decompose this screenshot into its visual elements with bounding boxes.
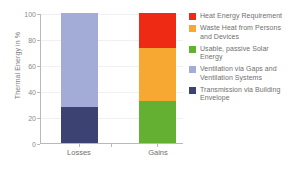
bar-losses <box>61 13 98 143</box>
bar-segment-heat-energy-requirement <box>139 13 176 48</box>
legend-item[interactable]: Ventilation via Gaps and Ventilation Sys… <box>189 65 293 82</box>
y-tick-label: 60 <box>28 63 36 70</box>
x-tick-mark-losses <box>79 144 80 147</box>
x-tick-mark-gains <box>157 144 158 147</box>
bar-segment-passive-solar <box>139 101 176 143</box>
legend-item[interactable]: Transmission via Building Envelope <box>189 86 293 103</box>
legend-swatch-icon <box>189 25 196 32</box>
legend-item-label: Heat Energy Requirement <box>200 12 282 21</box>
y-axis-title: Thermal Energy in % <box>14 16 21 116</box>
y-tick-label: 80 <box>28 37 36 44</box>
legend-item-label: Transmission via Building Envelope <box>200 86 293 103</box>
y-axis-line <box>40 14 41 144</box>
legend-item[interactable]: Waste Heat from Persons and Devices <box>189 24 293 41</box>
y-tick-mark <box>37 66 40 67</box>
x-axis-label-losses: Losses <box>49 148 109 157</box>
legend-swatch-icon <box>189 46 196 53</box>
y-tick-label: 40 <box>28 89 36 96</box>
legend-item-label: Waste Heat from Persons and Devices <box>200 24 293 41</box>
y-tick-label: 100 <box>24 11 36 18</box>
x-axis-label-gains: Gains <box>128 148 188 157</box>
y-tick-mark <box>37 40 40 41</box>
bar-segment-waste-heat <box>139 48 176 101</box>
legend-item-label: Usable, passive Solar Energy <box>200 45 293 62</box>
legend-item-label: Ventilation via Gaps and Ventilation Sys… <box>200 65 293 82</box>
bar-segment-ventilation-via-gaps <box>61 13 98 107</box>
thermal-energy-stacked-bar-chart: Thermal Energy in % 100806040200 Losses … <box>0 0 294 169</box>
y-tick-mark <box>37 118 40 119</box>
y-tick-label: 0 <box>32 141 36 148</box>
y-tick-mark <box>37 14 40 15</box>
legend: Heat Energy RequirementWaste Heat from P… <box>189 12 293 106</box>
legend-swatch-icon <box>189 13 196 20</box>
y-tick-label: 20 <box>28 115 36 122</box>
x-tick-mark-middle <box>111 144 112 147</box>
legend-swatch-icon <box>189 87 196 94</box>
y-tick-mark <box>37 144 40 145</box>
legend-item[interactable]: Usable, passive Solar Energy <box>189 45 293 62</box>
legend-item[interactable]: Heat Energy Requirement <box>189 12 293 21</box>
y-tick-mark <box>37 92 40 93</box>
bar-gains <box>139 13 176 143</box>
legend-swatch-icon <box>189 66 196 73</box>
bar-segment-transmission-via-envelope <box>61 107 98 143</box>
plot-area: 100806040200 Losses Gains <box>40 14 183 144</box>
